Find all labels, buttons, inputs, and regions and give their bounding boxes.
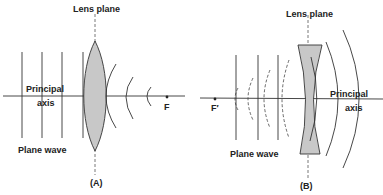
focal-point-f-prime — [214, 98, 217, 101]
virtual-wavefront — [282, 60, 289, 138]
focal-point-label-f-prime: F′ — [211, 103, 219, 113]
focal-point-label-f: F — [164, 102, 170, 112]
virtual-wavefront — [235, 88, 238, 110]
principal-axis-label-b-2: axis — [345, 103, 363, 113]
principal-axis-label-b-1: Principal — [330, 89, 368, 99]
converging-wavefront — [126, 77, 133, 119]
lens-plane-label-a: Lens plane — [73, 4, 120, 14]
virtual-wavefront — [248, 78, 253, 120]
panel-b: Lens plane Principal axis Plane wave F′ … — [200, 9, 383, 191]
principal-axis-label-a-1: Principal — [26, 84, 64, 94]
plane-wave-label-b: Plane wave — [230, 149, 279, 159]
concave-lens — [298, 45, 322, 154]
lens-plane-label-b: Lens plane — [286, 9, 333, 19]
virtual-wavefront — [264, 70, 270, 128]
converging-wavefront — [147, 87, 151, 106]
caption-a: (A) — [90, 178, 103, 188]
convex-lens — [84, 41, 107, 151]
lens-diagram: Lens plane Principal axis Plane wave F (… — [0, 0, 383, 195]
focal-point-f — [166, 96, 169, 99]
caption-b: (B) — [300, 181, 313, 191]
principal-axis-label-a-2: axis — [37, 98, 55, 108]
panel-a: Lens plane Principal axis Plane wave F (… — [3, 4, 185, 188]
plane-wave-label-a: Plane wave — [18, 145, 67, 155]
